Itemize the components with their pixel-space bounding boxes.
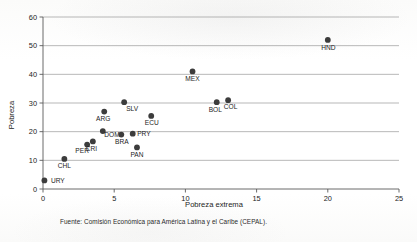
data-point-DOM: DOM <box>100 128 120 138</box>
point-label-ARG: ARG <box>96 115 110 122</box>
point-label-HND: HND <box>321 44 336 51</box>
x-tick-label-15: 15 <box>252 194 260 203</box>
data-point-BOL: BOL <box>209 99 223 113</box>
data-points: URYCHLPERCRIDOMARGBRASLVPRYPANECUMEXBOLC… <box>42 37 336 184</box>
point-label-PAN: PAN <box>130 151 143 158</box>
point-marker-MEX <box>190 69 196 75</box>
data-point-COL: COL <box>224 97 238 110</box>
y-tick-label-40: 40 <box>29 70 37 79</box>
y-tick-label-20: 20 <box>29 127 37 136</box>
gridlines <box>43 17 399 160</box>
point-label-BRA: BRA <box>115 138 129 145</box>
data-point-PAN: PAN <box>130 145 143 159</box>
y-tick-label-0: 0 <box>33 185 37 194</box>
point-label-PRY: PRY <box>137 130 151 137</box>
point-marker-ARG <box>101 109 107 115</box>
point-marker-CHL <box>61 156 67 162</box>
data-point-SLV: SLV <box>121 99 138 112</box>
x-tick-label-25: 25 <box>395 194 403 203</box>
point-label-SLV: SLV <box>126 105 139 112</box>
y-tick-label-60: 60 <box>29 13 37 22</box>
point-marker-CRI <box>90 139 96 145</box>
point-label-MEX: MEX <box>185 75 200 82</box>
x-tick-label-20: 20 <box>324 194 332 203</box>
chart-canvas: 0102030405060 0510152025 URYCHLPERCRIDOM… <box>0 0 417 242</box>
point-marker-PAN <box>134 145 140 151</box>
point-marker-PRY <box>130 131 136 137</box>
point-label-URY: URY <box>51 177 65 184</box>
point-marker-BRA <box>118 132 124 138</box>
data-point-CHL: CHL <box>58 156 72 169</box>
point-marker-HND <box>325 37 331 43</box>
point-marker-ECU <box>148 113 154 119</box>
point-label-CRI: CRI <box>86 145 98 152</box>
scatter-chart: 0102030405060 0510152025 URYCHLPERCRIDOM… <box>0 0 417 242</box>
data-point-URY: URY <box>42 177 66 184</box>
point-label-COL: COL <box>224 103 238 110</box>
data-point-HND: HND <box>321 37 336 51</box>
point-label-ECU: ECU <box>145 119 159 126</box>
data-point-MEX: MEX <box>185 69 200 83</box>
data-point-CRI: CRI <box>86 139 98 153</box>
data-point-PRY: PRY <box>130 130 151 137</box>
point-label-BOL: BOL <box>209 106 223 113</box>
x-axis-title: Pobreza extrema <box>185 200 244 209</box>
data-point-ARG: ARG <box>96 109 110 122</box>
y-tick-label-50: 50 <box>29 41 37 50</box>
y-tick-label-10: 10 <box>29 156 37 165</box>
point-marker-BOL <box>214 99 220 105</box>
x-tick-label-5: 5 <box>112 194 116 203</box>
y-axis-title: Pobreza <box>7 100 16 129</box>
data-point-ECU: ECU <box>145 113 159 126</box>
point-label-CHL: CHL <box>58 162 72 169</box>
y-axis-ticks: 0102030405060 <box>29 13 43 194</box>
x-tick-label-0: 0 <box>41 194 45 203</box>
source-note: Fuente: Comisión Económica para América … <box>60 218 267 225</box>
y-tick-label-30: 30 <box>29 99 37 108</box>
point-marker-URY <box>42 178 48 184</box>
